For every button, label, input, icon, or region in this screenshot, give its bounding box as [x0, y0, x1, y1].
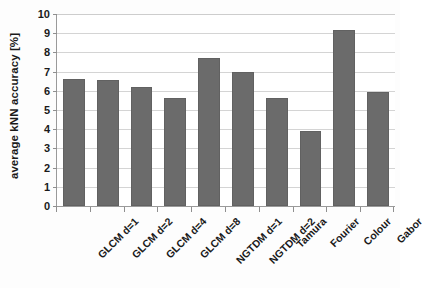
- y-axis-tick-label: 9: [44, 27, 50, 39]
- x-axis-tickmark: [293, 207, 294, 212]
- x-axis-category-label: Fourier: [327, 215, 361, 249]
- x-axis-tickmark: [326, 207, 327, 212]
- y-axis-tick-label: 7: [44, 66, 50, 78]
- y-axis-tick-label: 3: [44, 142, 50, 154]
- y-axis-tick-label: 2: [44, 162, 50, 174]
- x-axis-tickmark: [393, 207, 394, 212]
- y-axis-tick-label: 6: [44, 85, 50, 97]
- x-axis-tickmark: [56, 207, 57, 212]
- bar[interactable]: [164, 98, 186, 206]
- bar-slot: [226, 14, 260, 206]
- bar[interactable]: [367, 92, 389, 206]
- bar[interactable]: [232, 72, 254, 206]
- y-axis-tick-label: 5: [44, 104, 50, 116]
- x-axis-category-label: Gabor: [393, 215, 423, 245]
- bar-slot: [125, 14, 159, 206]
- bar-slot: [327, 14, 361, 206]
- bar[interactable]: [266, 98, 288, 206]
- bar-slot: [294, 14, 328, 206]
- bars-layer: [57, 14, 395, 206]
- y-axis-tick-label: 1: [44, 181, 50, 193]
- x-axis-tickmark: [360, 207, 361, 212]
- y-axis-tick-label: 10: [38, 8, 50, 20]
- bar-slot: [158, 14, 192, 206]
- x-axis-category-label: Colour: [361, 215, 393, 247]
- y-axis-title: average kNN accuracy [%]: [0, 0, 28, 212]
- x-axis-tickmark: [259, 207, 260, 212]
- bar-slot: [260, 14, 294, 206]
- y-axis-tick-labels: 012345678910: [28, 14, 54, 206]
- bar-slot: [91, 14, 125, 206]
- x-axis-tickmark: [157, 207, 158, 212]
- bar-slot: [192, 14, 226, 206]
- y-axis-title-label: average kNN accuracy [%]: [8, 33, 20, 179]
- y-axis-tick-label: 8: [44, 46, 50, 58]
- bar[interactable]: [198, 58, 220, 206]
- bar[interactable]: [63, 79, 85, 206]
- bar-slot: [57, 14, 91, 206]
- x-axis-tickmark: [90, 207, 91, 212]
- x-axis-tickmark: [124, 207, 125, 212]
- x-axis-tickmark: [191, 207, 192, 212]
- bar[interactable]: [97, 80, 119, 206]
- plot-area: [56, 14, 395, 207]
- x-axis-tickmark: [225, 207, 226, 212]
- bar-slot: [361, 14, 395, 206]
- y-axis-tick-label: 0: [44, 200, 50, 212]
- bar[interactable]: [300, 131, 322, 206]
- bar[interactable]: [131, 87, 153, 206]
- x-axis-category-labels: GLCM d=1GLCM d=2GLCM d=4GLCM d=8NGTDM d=…: [56, 213, 394, 288]
- y-axis-tick-label: 4: [44, 123, 50, 135]
- bar[interactable]: [333, 30, 355, 206]
